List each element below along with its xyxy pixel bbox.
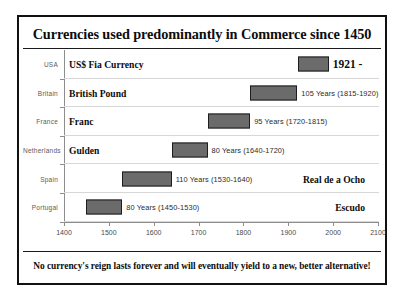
chart-title-band: Currencies used predominantly in Commerc… [23, 21, 381, 49]
bar-usa [298, 57, 329, 72]
currency-name-usa: US$ Fia Currency [69, 59, 143, 70]
duration-label-usa: 1921 - [333, 58, 363, 70]
value-tick [378, 222, 379, 226]
duration-label-portugal: 80 Years (1450-1530) [126, 203, 199, 212]
value-axis-line [64, 222, 378, 223]
value-tick-label-2000: 2000 [325, 229, 341, 236]
category-label-spain: Spain [23, 175, 58, 182]
duration-label-spain: 110 Years (1530-1640) [176, 174, 253, 183]
bar-france [208, 114, 251, 129]
currency-name-netherlands: Gulden [69, 145, 99, 156]
category-label-usa: USA [23, 61, 58, 68]
category-label-britain: Britain [23, 89, 58, 96]
duration-label-netherlands: 80 Years (1640-1720) [212, 146, 285, 155]
chart-row-britain: Britain105 Years (1815-1920)British Poun… [23, 79, 381, 108]
bar-spain [122, 171, 171, 186]
chart-title: Currencies used predominantly in Commerc… [33, 26, 372, 43]
category-label-portugal: Portugal [23, 204, 58, 211]
bar-portugal [86, 200, 122, 215]
currency-name-britain: British Pound [69, 87, 126, 98]
value-tick-label-1900: 1900 [280, 229, 296, 236]
category-label-netherlands: Netherlands [23, 147, 58, 154]
chart-row-portugal: Portugal80 Years (1450-1530)Escudo [23, 193, 381, 222]
bar-britain [250, 85, 297, 100]
chart-row-france: France95 Years (1720-1815)Franc [23, 107, 381, 136]
currency-name-portugal: Escudo [335, 202, 365, 213]
value-tick [243, 222, 244, 226]
chart-footer-band: No currency's reign lasts forever and wi… [23, 251, 381, 279]
bar-netherlands [172, 143, 208, 158]
duration-label-britain: 105 Years (1815-1920) [301, 88, 378, 97]
value-tick [64, 222, 65, 226]
category-label-france: France [23, 118, 58, 125]
currency-name-france: Franc [69, 116, 94, 127]
value-tick-label-1700: 1700 [191, 229, 207, 236]
value-tick-label-1800: 1800 [236, 229, 252, 236]
value-tick [154, 222, 155, 226]
duration-label-france: 95 Years (1720-1815) [254, 117, 327, 126]
value-tick [109, 222, 110, 226]
value-tick [333, 222, 334, 226]
chart-row-usa: USA1921 -US$ Fia Currency [23, 50, 381, 79]
chart-panel: Currencies used predominantly in Commerc… [17, 15, 387, 285]
footer-caption: No currency's reign lasts forever and wi… [33, 261, 370, 271]
value-tick [199, 222, 200, 226]
value-tick-label-2100: 2100 [370, 229, 386, 236]
value-tick-label-1500: 1500 [101, 229, 117, 236]
currency-name-spain: Real de a Ocho [303, 173, 365, 184]
value-tick-label-1600: 1600 [146, 229, 162, 236]
value-tick-label-1400: 1400 [56, 229, 72, 236]
value-tick [288, 222, 289, 226]
plot-area: USA1921 -US$ Fia CurrencyBritain105 Year… [23, 50, 381, 249]
chart-row-spain: Spain110 Years (1530-1640)Real de a Ocho [23, 164, 381, 193]
chart-row-netherlands: Netherlands80 Years (1640-1720)Gulden [23, 136, 381, 165]
